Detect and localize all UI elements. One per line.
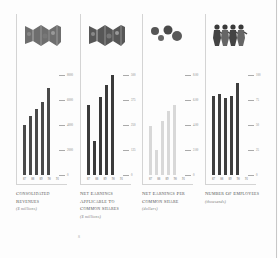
caption-unit: (thousands) [205, 198, 261, 206]
y-tick-label: 0 [193, 173, 195, 177]
y-tick-label: 8000 [67, 73, 73, 77]
chart-panel-3: 02.004.006.008.008788899091 [142, 14, 193, 185]
bar-87 [23, 125, 26, 175]
y-tick [123, 75, 129, 76]
chart-panel-1: 020004000600080008788899091 [16, 14, 67, 185]
year-label: 91 [120, 177, 123, 181]
y-tick-label: 6.00 [193, 98, 198, 102]
bar-88 [93, 141, 96, 175]
y-tick [185, 100, 191, 101]
y-tick-label: 50 [256, 123, 259, 127]
y-tick [248, 75, 254, 76]
year-label: 88 [95, 177, 98, 181]
year-label: 91 [56, 177, 59, 181]
year-label: 91 [245, 177, 248, 181]
y-tick-label: 250 [131, 123, 136, 127]
bar-89 [35, 109, 38, 175]
y-tick-label: 2.00 [193, 148, 198, 152]
year-label: 89 [40, 177, 43, 181]
bar-87 [212, 96, 215, 175]
y-tick [123, 125, 129, 126]
y-tick-label: 500 [131, 73, 136, 77]
bar-91 [47, 88, 50, 175]
bar-89 [161, 121, 164, 175]
chart-caption: Consolidated revenues($ millions) [16, 190, 72, 213]
y-tick [248, 125, 254, 126]
y-tick [185, 150, 191, 151]
y-tick-label: 0 [131, 173, 133, 177]
chart-caption: Net earnings applicable to common shares… [80, 190, 136, 220]
year-label: 88 [157, 177, 160, 181]
bar-90 [41, 102, 44, 175]
y-tick-label: 6000 [67, 98, 73, 102]
year-label: 90 [237, 177, 240, 181]
bar-89 [224, 98, 227, 175]
coins-icon [149, 22, 189, 46]
caption-title: Number of employees [205, 190, 261, 198]
x-axis-year-labels: 8788899091 [212, 177, 248, 181]
bar-90 [167, 111, 170, 175]
caption-title: Consolidated revenues [16, 190, 72, 205]
caption-unit: ($ millions) [16, 205, 72, 213]
y-tick-label: 4.00 [193, 123, 198, 127]
x-axis-year-labels: 8788899091 [87, 177, 123, 181]
y-tick-label: 375 [131, 98, 136, 102]
y-tick [123, 100, 129, 101]
bar-89 [99, 97, 102, 175]
y-tick [248, 100, 254, 101]
y-tick [248, 175, 254, 176]
year-label: 87 [87, 177, 90, 181]
y-tick-label: 0 [67, 173, 69, 177]
y-tick [123, 150, 129, 151]
bar-88 [155, 150, 158, 175]
year-label: 90 [112, 177, 115, 181]
y-tick [59, 150, 65, 151]
y-tick [248, 150, 254, 151]
bar-88 [29, 116, 32, 175]
y-tick [185, 75, 191, 76]
year-label: 87 [23, 177, 26, 181]
y-tick [123, 175, 129, 176]
y-tick [59, 175, 65, 176]
bar-90 [105, 85, 108, 175]
year-label: 90 [48, 177, 51, 181]
folded-map-icon [87, 22, 127, 46]
year-label: 87 [149, 177, 152, 181]
y-tick-label: 0 [256, 173, 258, 177]
paper-doll-people-icon [212, 22, 252, 46]
bar-91 [173, 105, 176, 175]
page-mark: 8 [78, 234, 80, 239]
y-tick [185, 125, 191, 126]
y-tick-label: 2000 [67, 148, 73, 152]
bar-87 [149, 126, 152, 175]
chart-caption: Net earnings per common share(dollars) [142, 190, 198, 213]
caption-title: Net earnings per common share [142, 190, 198, 205]
caption-title: Net earnings applicable to common shares [80, 190, 136, 213]
year-label: 90 [174, 177, 177, 181]
chart-panel-2: 01252503755008788899091 [80, 14, 131, 185]
year-label: 89 [229, 177, 232, 181]
bar-88 [218, 94, 221, 175]
y-tick-label: 100 [256, 73, 261, 77]
bar-91 [236, 83, 239, 175]
year-label: 89 [166, 177, 169, 181]
year-label: 91 [182, 177, 185, 181]
y-tick-label: 125 [131, 148, 136, 152]
year-label: 89 [104, 177, 107, 181]
chart-panel-4: 02550751008788899091 [205, 14, 256, 185]
bar-chart: 0255075100 [212, 75, 256, 175]
y-tick [59, 75, 65, 76]
year-label: 87 [212, 177, 215, 181]
y-tick-label: 4000 [67, 123, 73, 127]
page-edge-rule [276, 0, 277, 258]
caption-unit: (dollars) [142, 205, 198, 213]
bar-chart: 02000400060008000 [23, 75, 67, 175]
year-label: 88 [31, 177, 34, 181]
folded-map-icon [23, 22, 63, 46]
x-axis-year-labels: 8788899091 [149, 177, 185, 181]
bar-chart: 02.004.006.008.00 [149, 75, 193, 175]
year-label: 88 [220, 177, 223, 181]
bar-87 [87, 105, 90, 175]
x-axis-year-labels: 8788899091 [23, 177, 59, 181]
y-tick [185, 175, 191, 176]
